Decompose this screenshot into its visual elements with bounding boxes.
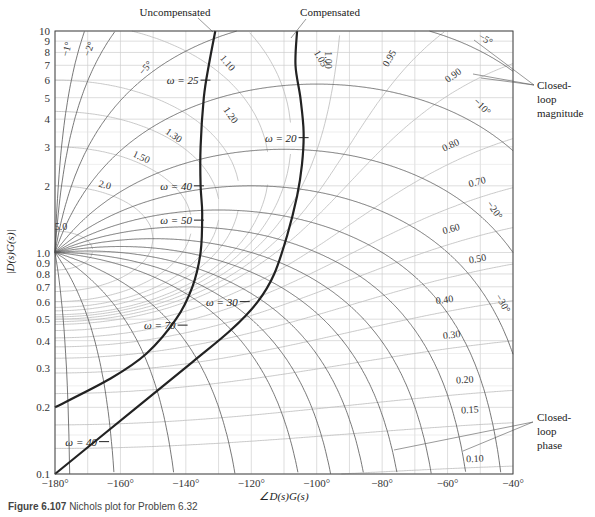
contour-label: 0.40 xyxy=(435,293,454,306)
x-tick-label: −100° xyxy=(303,477,330,489)
contour-label: 1.30 xyxy=(164,126,185,145)
uncompensated-leader xyxy=(198,18,213,32)
contour-label: 1.20 xyxy=(221,105,240,126)
frequency-marker-label: ω = 40 xyxy=(65,436,97,448)
frequency-marker-label: ω = 25 xyxy=(167,74,199,86)
closed-loop-magnitude-contour xyxy=(55,32,444,322)
contour-label: 1.00 xyxy=(323,51,334,69)
y-tick-label: 0.7 xyxy=(36,281,50,293)
contour-label: −2° xyxy=(81,40,96,58)
closed-loop-phase-contour xyxy=(55,32,84,253)
x-tick-label: −140° xyxy=(172,477,199,489)
y-tick-label: 0.4 xyxy=(36,335,50,347)
contour-label: −5° xyxy=(477,31,495,48)
contour-label: 0.70 xyxy=(467,174,487,189)
closed-loop-magnitude-contour xyxy=(341,466,513,474)
contour-label: 5.0 xyxy=(55,221,68,232)
contour-label: 0.80 xyxy=(440,136,461,153)
x-tick-label: −180° xyxy=(41,477,68,489)
closed-loop-magnitude-contour xyxy=(250,33,291,123)
contour-label: 1.50 xyxy=(131,148,152,165)
contour-label: 0.15 xyxy=(461,404,479,416)
compensated-annotation: Compensated xyxy=(300,6,360,18)
y-tick-label: 0.2 xyxy=(36,401,50,413)
y-tick-label: 0.5 xyxy=(36,313,50,325)
frequency-marker-label: ω = 40 xyxy=(160,180,192,192)
closed-loop-phase-contour xyxy=(55,32,115,253)
y-tick-label: 0.9 xyxy=(36,257,50,269)
uncompensated-annotation: Uncompensated xyxy=(140,6,211,18)
contour-label: −10° xyxy=(472,96,494,118)
figure-title: Nichols plot for Problem 6.32 xyxy=(69,501,197,512)
contour-label: 0.60 xyxy=(441,221,461,236)
y-tick-label: 0.8 xyxy=(36,268,50,280)
x-tick-label: −80° xyxy=(371,477,393,489)
figure-caption: Figure 6.107 Nichols plot for Problem 6.… xyxy=(8,501,198,512)
frequency-marker-label: ω = 30 xyxy=(206,296,238,308)
svg-text:loop: loop xyxy=(537,425,557,437)
compensated-leader xyxy=(291,19,306,38)
contour-label: −5° xyxy=(136,59,154,77)
contour-label: 0.50 xyxy=(468,252,487,266)
contour-label: 0.30 xyxy=(442,328,461,341)
contour-label: −20° xyxy=(485,199,505,221)
y-tick-label: 5 xyxy=(45,92,51,104)
svg-text:phase: phase xyxy=(537,439,562,451)
y-tick-label: 8 xyxy=(45,46,51,58)
y-tick-label: 9 xyxy=(45,35,51,47)
contour-label: 0.10 xyxy=(466,453,484,465)
closed-loop-magnitude-contour xyxy=(55,231,93,249)
svg-text:magnitude: magnitude xyxy=(537,107,584,119)
frequency-marker-label: ω = 20 xyxy=(265,132,297,144)
svg-text:Closed-: Closed- xyxy=(537,411,572,423)
x-tick-label: −40° xyxy=(502,477,524,489)
contour-label: 1.10 xyxy=(218,53,238,73)
x-tick-label: −120° xyxy=(238,477,265,489)
y-tick-label: 0.3 xyxy=(36,362,50,374)
closed-loop-magnitude-contour xyxy=(55,186,153,239)
x-tick-label: −160° xyxy=(107,477,134,489)
y-tick-label: 3 xyxy=(45,141,51,153)
contour-label: 0.20 xyxy=(456,373,474,385)
y-tick-label: 0.6 xyxy=(36,296,50,308)
closed-loop-magnitude-contour xyxy=(132,31,268,152)
y-tick-label: 2 xyxy=(45,180,51,192)
figure-number: Figure 6.107 xyxy=(8,501,66,512)
y-axis-ticks: 10987654321.00.90.80.70.60.50.40.30.20.1 xyxy=(36,25,50,480)
frequency-marker-label: ω = 70 xyxy=(144,319,176,331)
x-axis-label: ∠D(s)G(s) xyxy=(259,490,308,503)
y-tick-label: 6 xyxy=(45,74,51,86)
x-axis-ticks: −180°−160°−140°−120°−100°−80°−60°−40° xyxy=(41,477,523,489)
closed-loop-magnitude-contour xyxy=(55,154,291,317)
nichols-chart: 10987654321.00.90.80.70.60.50.40.30.20.1… xyxy=(0,0,595,517)
x-tick-label: −60° xyxy=(437,477,459,489)
svg-text:loop: loop xyxy=(537,93,557,105)
closed-loop-phase-annotation: Closed- loop phase xyxy=(394,411,572,451)
contour-label: 0.90 xyxy=(443,66,464,85)
contour-label: 2.0 xyxy=(97,178,112,192)
frequency-marker-label: ω = 50 xyxy=(160,214,192,226)
contour-label: −1° xyxy=(59,41,73,58)
frequency-markers: ω = 25ω = 40ω = 50ω = 70ω = 20ω = 30ω = … xyxy=(65,74,308,447)
svg-text:Closed-: Closed- xyxy=(537,79,572,91)
y-tick-label: 7 xyxy=(45,59,51,71)
closed-loop-magnitude-contour xyxy=(55,234,191,302)
y-tick-label: 4 xyxy=(45,113,51,125)
y-axis-label: |D(s)G(s)| xyxy=(4,229,17,274)
